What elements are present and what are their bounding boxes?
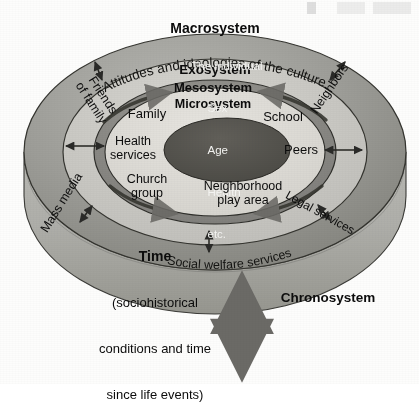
core-line-3: Age <box>192 143 263 157</box>
microsystem-item-neighborhood: Neighborhood play area <box>204 179 283 207</box>
microsystem-item-school: School <box>263 110 303 124</box>
core-line-1: The individual <box>192 59 263 73</box>
time-label: Time <box>99 248 211 265</box>
microsystem-item-peers: Peers <box>284 143 318 157</box>
microsystem-item-health-services: Health services <box>110 134 156 162</box>
time-detail-line-2: conditions and time <box>99 341 211 356</box>
time-detail-line-1: (sociohistorical <box>99 295 211 310</box>
chronosystem-label: Chronosystem <box>281 291 376 306</box>
page-header-smudge <box>307 2 411 14</box>
microsystem-item-church-group: Church group <box>127 172 167 200</box>
core-line-2: Sex <box>192 101 263 115</box>
time-detail-line-3: since life events) <box>99 387 211 402</box>
time-block: Time (sociohistorical conditions and tim… <box>99 217 211 406</box>
microsystem-item-family: Family <box>128 107 166 121</box>
